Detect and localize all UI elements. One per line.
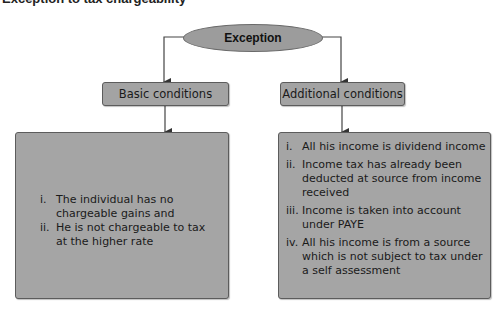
list-item-text: Income is taken into account under PAYE — [302, 204, 486, 232]
root-node-exception: Exception — [183, 24, 323, 52]
list-item-text: He is not chargeable to tax at the highe… — [56, 221, 210, 249]
additional-conditions-list-box: i. All his income is dividend income ii.… — [278, 132, 491, 299]
list-item: iii. Income is taken into account under … — [286, 204, 486, 232]
list-item-text: The individual has no chargeable gains a… — [56, 193, 210, 221]
arrow-root-to-additional — [322, 37, 341, 82]
list-item-text: All his income is dividend income — [302, 140, 486, 154]
list-item-text: All his income is from a source which is… — [302, 236, 486, 278]
list-item-number: iv. — [286, 236, 302, 278]
additional-conditions-list: i. All his income is dividend income ii.… — [286, 140, 486, 282]
list-item: iv. All his income is from a source whic… — [286, 236, 486, 278]
list-item: ii. He is not chargeable to tax at the h… — [40, 221, 210, 249]
node-basic-conditions: Basic conditions — [102, 82, 229, 106]
node-additional-conditions: Additional conditions — [280, 82, 405, 106]
list-item-text: Income tax has already been deducted at … — [302, 158, 486, 200]
list-item-number: ii. — [40, 221, 56, 249]
arrow-root-to-basic — [164, 37, 184, 82]
list-item-number: iii. — [286, 204, 302, 232]
list-item-number: i. — [40, 193, 56, 221]
basic-conditions-list: i. The individual has no chargeable gain… — [40, 193, 210, 249]
list-item: i. All his income is dividend income — [286, 140, 486, 154]
root-node-label: Exception — [224, 31, 281, 45]
list-item-number: i. — [286, 140, 302, 154]
basic-conditions-list-box: i. The individual has no chargeable gain… — [15, 132, 229, 299]
list-item: ii. Income tax has already been deducted… — [286, 158, 486, 200]
list-item: i. The individual has no chargeable gain… — [40, 193, 210, 221]
node-additional-conditions-label: Additional conditions — [282, 87, 403, 101]
list-item-number: ii. — [286, 158, 302, 200]
node-basic-conditions-label: Basic conditions — [119, 87, 212, 101]
